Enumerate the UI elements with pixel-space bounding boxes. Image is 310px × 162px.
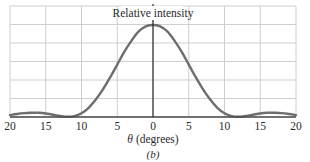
x-tick-label: 20: [290, 120, 302, 132]
x-tick-label: 15: [40, 120, 52, 132]
x-tick-label: 5: [114, 120, 120, 132]
x-tick-label: 10: [219, 120, 231, 132]
x-tick-label: 5: [186, 120, 192, 132]
x-tick-label: 10: [76, 120, 88, 132]
chart-title: Relative intensity: [113, 7, 194, 20]
x-tick-label: 0: [150, 120, 156, 132]
x-tick-label: 20: [4, 120, 16, 132]
x-axis-label: θ (degrees): [127, 133, 178, 146]
subfigure-label: (b): [147, 148, 160, 161]
intensity-chart: Relative intensity 201510505101520 θ (de…: [0, 0, 310, 162]
x-tick-labels: 201510505101520: [4, 120, 302, 132]
x-tick-label: 15: [255, 120, 267, 132]
x-axis-unit: (degrees): [133, 133, 179, 146]
